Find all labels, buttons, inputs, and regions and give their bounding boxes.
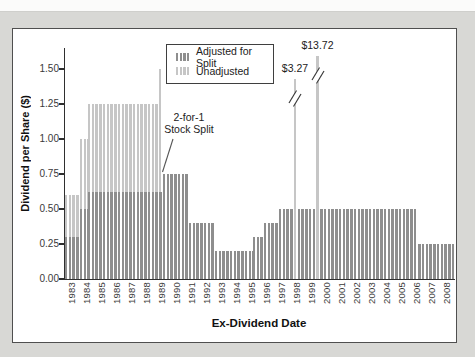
x-year-label: 2006	[411, 282, 422, 304]
x-year-label: 1986	[111, 282, 122, 304]
x-year-label: 2002	[351, 282, 362, 304]
x-year-label: 1991	[186, 282, 197, 304]
special-dividend-label: $3.27	[282, 62, 308, 74]
bar-segment-adjusted	[189, 223, 215, 279]
adjusted-series-swatch-icon	[176, 53, 189, 61]
x-year-label: 1995	[246, 282, 257, 304]
y-axis-tick	[59, 138, 64, 140]
x-year-label: 2005	[396, 282, 407, 304]
screenshot-root: { "page": { "background": "#d8d8d5", "pa…	[0, 0, 475, 357]
legend: Adjusted for Split Unadjusted	[166, 44, 274, 84]
x-year-label: 1999	[306, 282, 317, 304]
x-year-label: 1988	[141, 282, 152, 304]
stock-split-annotation-line1: 2-for-1	[151, 111, 227, 123]
x-axis-title: Ex-Dividend Date	[64, 317, 454, 329]
y-axis-tick	[59, 173, 64, 175]
x-year-label: 1984	[81, 282, 92, 304]
special-dividend-bar	[294, 79, 297, 279]
bar-segment-adjusted	[80, 209, 88, 279]
axis-break-icon	[288, 90, 302, 107]
x-year-label: 1997	[276, 282, 287, 304]
stock-split-annotation: 2-for-1 Stock Split	[151, 111, 227, 135]
x-year-label: 1983	[66, 282, 77, 304]
x-year-label: 1985	[96, 282, 107, 304]
y-axis-tick	[59, 68, 64, 70]
special-dividend-label: $13.72	[301, 39, 333, 51]
x-year-label: 1998	[291, 282, 302, 304]
x-year-label: 2004	[381, 282, 392, 304]
x-year-label: 1987	[126, 282, 137, 304]
y-tick-label: 0.75	[25, 168, 59, 179]
bar-segment-adjusted	[264, 223, 279, 279]
x-year-label: 2007	[426, 282, 437, 304]
x-year-label: 2001	[336, 282, 347, 304]
x-year-label: 1996	[261, 282, 272, 304]
page-top-strip	[0, 0, 475, 12]
y-tick-label: 1.00	[25, 133, 59, 144]
bar-segment-adjusted	[65, 237, 80, 279]
x-year-label: 1994	[231, 282, 242, 304]
x-year-label: 2003	[366, 282, 377, 304]
legend-row-adjusted: Adjusted for Split	[176, 50, 273, 64]
legend-label-unadjusted: Unadjusted	[196, 65, 249, 77]
x-year-label: 1992	[201, 282, 212, 304]
bar-segment-adjusted	[279, 209, 418, 279]
bar-segment-adjusted	[215, 251, 253, 279]
unadjusted-series-swatch-icon	[176, 67, 189, 75]
y-tick-label: 1.25	[25, 98, 59, 109]
x-year-label: 2000	[321, 282, 332, 304]
y-tick-label: 1.50	[25, 63, 59, 74]
x-year-label: 1989	[156, 282, 167, 304]
y-tick-label: 0.25	[25, 238, 59, 249]
y-axis-tick	[59, 278, 64, 280]
x-year-label: 1993	[216, 282, 227, 304]
bar-segment-adjusted	[253, 237, 264, 279]
stock-split-annotation-line2: Stock Split	[151, 123, 227, 135]
y-axis-tick	[59, 243, 64, 245]
y-tick-label: 0.50	[25, 203, 59, 214]
y-axis-tick	[59, 208, 64, 210]
y-tick-label: 0.00	[25, 273, 59, 284]
y-axis-tick	[59, 103, 64, 105]
bar-segment-adjusted	[163, 174, 189, 279]
bar-segment-adjusted	[418, 244, 456, 279]
axis-break-icon	[311, 67, 325, 84]
chart-panel: Dividend per Share ($) Ex-Dividend Date …	[12, 28, 457, 343]
x-year-label: 2008	[441, 282, 452, 304]
bar-segment-adjusted	[88, 192, 163, 280]
y-axis-title: Dividend per Share ($)	[19, 95, 31, 212]
x-year-label: 1990	[171, 282, 182, 304]
special-dividend-bar	[316, 56, 319, 279]
